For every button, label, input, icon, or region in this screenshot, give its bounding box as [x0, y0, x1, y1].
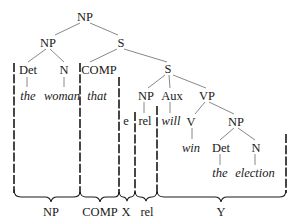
node-det-1: Det [19, 63, 38, 77]
leaf-win: win [182, 141, 200, 155]
node-n-1: N [59, 63, 68, 77]
leaf-woman: woman [44, 89, 80, 103]
node-np-object: NP [228, 115, 244, 129]
node-vp: VP [199, 89, 215, 103]
leaf-election: election [235, 166, 275, 180]
leaf-rel: rel [138, 114, 152, 128]
node-aux: Aux [161, 89, 183, 103]
bracket-label-np: NP [43, 205, 59, 219]
node-det-2: Det [212, 141, 231, 155]
node-np-sub: NP [40, 36, 56, 50]
node-n-2: N [251, 141, 260, 155]
node-np-inner: NP [138, 89, 154, 103]
segment-braces [14, 190, 286, 202]
bracket-label-rel: rel [140, 205, 154, 219]
leaf-the-2: the [212, 166, 228, 180]
node-s-relative: S [118, 36, 125, 50]
node-np-root: NP [77, 10, 93, 24]
bracket-label-y: Y [216, 205, 225, 219]
node-v: V [186, 115, 195, 129]
node-comp: COMP [81, 63, 116, 77]
leaf-the-1: the [20, 89, 36, 103]
syntax-tree-diagram: NP NP S Det N COMP S NP Aux VP V NP Det … [0, 0, 297, 224]
node-s-inner: S [165, 62, 172, 76]
bracket-label-x: X [121, 205, 130, 219]
leaf-that: that [87, 89, 107, 103]
bracket-label-comp: COMP [82, 205, 117, 219]
leaf-will: will [162, 114, 181, 128]
leaf-e: e [123, 114, 129, 128]
